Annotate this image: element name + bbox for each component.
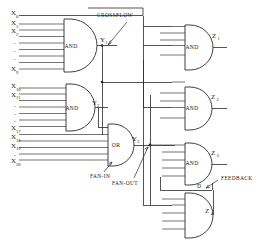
signal-z1-label: Z 1 [212,32,221,41]
annotation-fan-in: FAN-IN [90,162,112,179]
svg-text:2: 2 [16,32,19,37]
input-lines-group-bottom [19,135,108,161]
input-lines-group-top [19,24,64,69]
crossflow-bus [101,44,172,135]
svg-text:9: 9 [16,70,19,75]
signal-z3-label: Z 3 [211,149,220,158]
fan-out-label: FAN-OUT [112,180,138,186]
svg-text:1: 1 [105,40,108,45]
svg-text:1: 1 [218,36,221,41]
feedback-label: FEEDBACK [221,175,253,181]
svg-text:0: 0 [16,14,19,19]
signal-y1-label: Y 1 [100,36,108,45]
input-ellipsis-top: . . . [14,38,16,62]
input-label-x20: X 20 [11,157,21,167]
svg-text:.: . [14,54,16,62]
svg-text:1: 1 [16,24,19,29]
gate-and-z3[interactable]: AND [150,143,227,185]
svg-text:11: 11 [16,95,21,100]
svg-text:Z: Z [211,149,215,157]
circuit-diagram-canvas: AND Y 1 AND Y 2 [0,0,264,243]
circuit-diagram-svg: AND Y 1 AND Y 2 [0,0,264,243]
feedback-node-label: D [197,183,201,189]
junction-dot-y1 [101,44,104,47]
wire-y2-to-or [98,108,108,128]
gate-and-z2-label: AND [185,105,198,111]
svg-text:Z: Z [211,93,215,101]
gate-and-2-label: AND [65,105,78,111]
svg-text:Z: Z [205,207,209,215]
svg-text:3: 3 [137,139,140,144]
gate-and-z2[interactable]: AND [160,82,227,130]
svg-text:19: 19 [16,146,21,151]
fan-in-label: FAN-IN [90,173,110,179]
feedback-path: D [160,177,212,190]
svg-text:17: 17 [16,129,21,134]
svg-text:.: . [14,116,16,124]
signal-z2-label: Z 2 [211,93,220,102]
svg-text:Z: Z [212,32,216,40]
input-lines-group-middle [19,88,66,127]
input-label-x11: X 11 [11,91,21,101]
input-bus-top-rail [19,16,172,27]
svg-text:.: . [14,46,16,54]
input-label-x9: X 9 [11,65,19,75]
signal-y2-label: Y 2 [92,99,100,108]
svg-text:3: 3 [217,153,220,158]
gate-and-z3-label: AND [185,160,198,166]
gate-and-1[interactable]: AND [64,19,117,72]
svg-text:.: . [14,38,16,46]
svg-text:18: 18 [16,138,21,143]
input-label-x19: X 19 [11,142,21,152]
svg-text:.: . [14,101,16,109]
svg-text:20: 20 [16,162,21,167]
gate-and-1-label: AND [64,43,77,49]
crossflow-label: CROSSFLOW [97,12,133,18]
signal-y3-label: Y 3 [132,135,140,144]
right-feed-bus [143,27,172,108]
annotation-feedback: FEEDBACK [206,175,253,188]
input-label-x0: X 0 [11,9,19,19]
svg-text:10: 10 [16,87,21,92]
gate-and-z1[interactable]: AND [160,25,227,70]
gate-and-z1-label: AND [185,44,198,50]
svg-text:2: 2 [217,97,220,102]
input-ellipsis-middle: . . . [14,101,16,124]
gate-or-1-label: OR [112,142,120,148]
